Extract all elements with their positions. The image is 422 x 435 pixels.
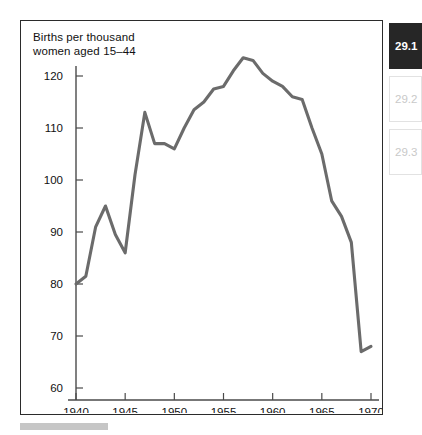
x-axis-tick-marks	[76, 393, 371, 400]
x-tick-label: 1945	[112, 406, 138, 413]
y-tick-label: 70	[50, 330, 63, 342]
figure-card: Births per thousand women aged 15–44 607…	[20, 20, 383, 415]
caption-placeholder-bar	[20, 423, 108, 430]
x-tick-label: 1955	[211, 406, 237, 413]
y-axis-tick-marks	[76, 76, 83, 388]
y-tick-label: 110	[45, 122, 63, 134]
x-tick-label: 1965	[309, 406, 335, 413]
section-chip-label: 29.1	[395, 40, 417, 52]
section-rail: 29.1 29.2 29.3	[389, 23, 422, 175]
section-chip-label: 29.3	[395, 146, 417, 158]
section-chip-29-2[interactable]: 29.2	[389, 76, 422, 122]
y-tick-label: 100	[44, 174, 63, 186]
y-tick-label: 80	[50, 278, 63, 290]
x-tick-label: 1960	[260, 406, 286, 413]
birth-rate-series-line	[76, 58, 371, 352]
section-chip-29-3[interactable]: 29.3	[389, 129, 422, 175]
y-tick-label: 90	[50, 226, 63, 238]
y-tick-label: 120	[44, 70, 63, 82]
y-axis-tick-labels: 60708090100110120	[44, 70, 63, 394]
x-tick-label: 1970	[358, 406, 382, 413]
y-tick-label: 60	[50, 382, 63, 394]
x-axis-tick-labels: 1940194519501955196019651970	[63, 406, 382, 413]
section-chip-label: 29.2	[395, 93, 417, 105]
section-chip-29-1[interactable]: 29.1	[389, 23, 422, 69]
x-tick-label: 1940	[63, 406, 89, 413]
x-tick-label: 1950	[162, 406, 188, 413]
line-chart-plot: 60708090100110120 1940194519501955196019…	[21, 21, 382, 413]
